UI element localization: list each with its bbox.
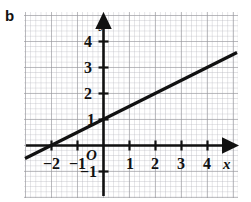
figure-canvas: b y x [0, 0, 251, 202]
part-label-b: b [5, 8, 14, 23]
y-tick-label-1: 1 [87, 112, 95, 128]
x-axis-label: x [223, 157, 231, 172]
x-tick-label-3: 3 [177, 156, 185, 172]
y-tick-label--1: −1 [80, 164, 97, 180]
y-axis-label: y [100, 16, 107, 31]
x-tick-label-4: 4 [203, 156, 211, 172]
y-tick-label-3: 3 [84, 60, 92, 76]
origin-label: O [86, 148, 97, 163]
x-tick-label-2: 2 [151, 156, 159, 172]
y-tick-label-2: 2 [84, 86, 92, 102]
y-tick-label-4: 4 [84, 34, 92, 50]
x-tick-label--2: −2 [43, 156, 60, 172]
x-tick-label-1: 1 [126, 156, 134, 172]
